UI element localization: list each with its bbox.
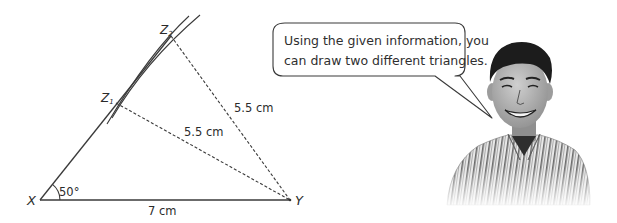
label-z2y-length: 5.5 cm: [234, 101, 273, 115]
triangle-diagram: X Y Z1 Z2 50° 7 cm 5.5 cm 5.5 cm: [26, 15, 304, 218]
construction-arc-1: [107, 16, 189, 124]
label-base-length: 7 cm: [148, 204, 177, 218]
label-z2-sub: 2: [168, 30, 173, 38]
student-illustration: [440, 40, 600, 210]
label-angle: 50°: [59, 185, 79, 199]
point-y: [289, 199, 292, 202]
illustration-fade: [440, 40, 600, 210]
label-x: X: [26, 193, 37, 208]
construction-arc-2: [112, 15, 200, 118]
segment-z1-y: [116, 103, 290, 200]
segment-z2-y: [171, 36, 290, 200]
label-z1y-length: 5.5 cm: [184, 125, 223, 139]
label-z1-sub: 1: [109, 98, 113, 106]
label-z2: Z2: [159, 23, 173, 38]
triangle-construction-scene: X Y Z1 Z2 50° 7 cm 5.5 cm 5.5 cm Using t…: [0, 0, 617, 223]
label-y: Y: [295, 193, 304, 208]
segment-x-z2: [40, 36, 171, 200]
label-z1: Z1: [100, 91, 114, 106]
